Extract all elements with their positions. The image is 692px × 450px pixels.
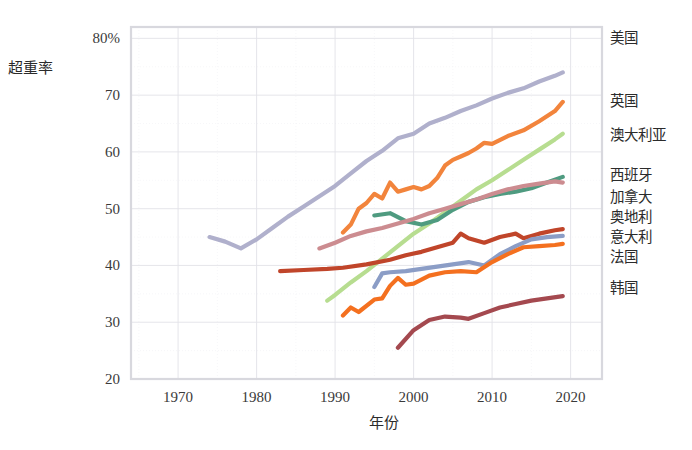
- x-tick-label: 2020: [556, 389, 586, 405]
- y-tick-label: 80%: [93, 30, 121, 46]
- legend-label-美国[interactable]: 美国: [610, 30, 638, 46]
- legend-label-意大利[interactable]: 意大利: [610, 228, 652, 245]
- legend-label-奥地利[interactable]: 奥地利: [610, 209, 652, 225]
- y-tick-label: 20: [105, 371, 120, 387]
- x-tick-label: 1970: [163, 389, 193, 405]
- legend-label-韩国[interactable]: 韩国: [610, 280, 638, 296]
- legend-label-法国[interactable]: 法国: [610, 249, 638, 265]
- legend-label-加拿大[interactable]: 加拿大: [610, 188, 652, 205]
- y-tick-label: 70: [105, 87, 120, 103]
- x-tick-label: 2000: [399, 389, 429, 405]
- overweight-rate-line-chart: 80%706050403020 197019801990200020102020…: [0, 0, 692, 450]
- y-tick-label: 50: [105, 201, 120, 217]
- x-tick-label: 1980: [242, 389, 272, 405]
- legend-label-澳大利亚[interactable]: 澳大利亚: [610, 127, 666, 143]
- x-tick-label: 1990: [320, 389, 350, 405]
- y-tick-label: 60: [105, 144, 120, 160]
- legend-label-西班牙[interactable]: 西班牙: [610, 167, 652, 183]
- x-axis-title: 年份: [369, 415, 399, 431]
- chart-background: [0, 0, 692, 450]
- legend-label-英国[interactable]: 英国: [610, 92, 638, 109]
- y-tick-label: 30: [105, 314, 120, 330]
- y-axis-title: 超重率: [8, 60, 53, 76]
- y-tick-label: 40: [105, 257, 120, 273]
- x-tick-label: 2010: [477, 389, 507, 405]
